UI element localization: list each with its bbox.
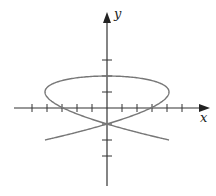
- axes: x y: [14, 6, 210, 186]
- y-axis-label: y: [113, 6, 122, 21]
- y-axis-arrow-icon: [103, 12, 111, 23]
- x-axis-label: x: [200, 110, 208, 125]
- diagram-canvas: x y: [0, 0, 216, 196]
